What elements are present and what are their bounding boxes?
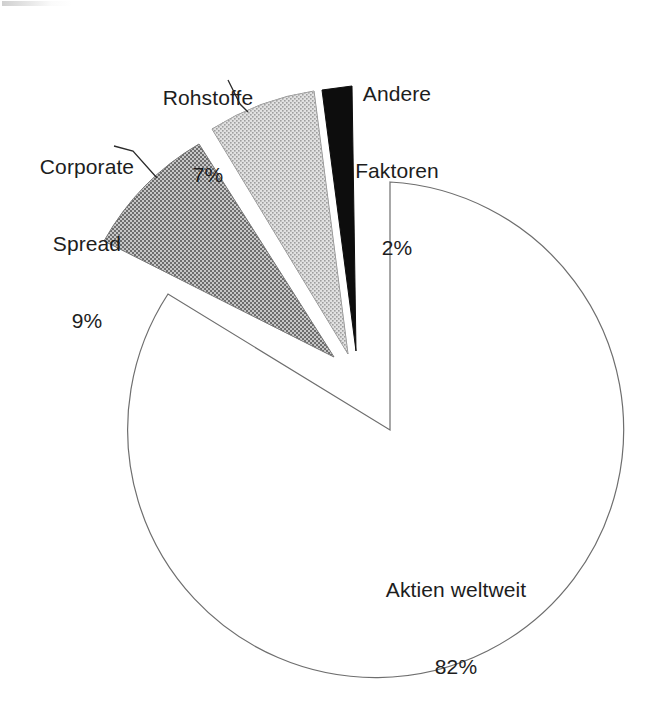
pie-label-aktien-weltweit-value: 82% [372,654,540,680]
pie-label-andere-faktoren-line2: Faktoren [322,158,472,184]
pie-label-rohstoffe-line1: Rohstoffe [140,85,276,111]
pie-label-aktien-weltweit: Aktien weltweit 82% [372,526,540,720]
pie-label-aktien-weltweit-line1: Aktien weltweit [372,577,540,603]
pie-label-andere-faktoren-line1: Andere [322,81,472,107]
pie-chart: Corporate Spread 9% Rohstoffe 7% Andere … [0,0,672,720]
pie-label-andere-faktoren: Andere Faktoren 2% [322,30,472,312]
pie-label-corporate-spread-value: 9% [12,308,162,334]
pie-label-rohstoffe-value: 7% [140,162,276,188]
pie-label-andere-faktoren-value: 2% [322,235,472,261]
pie-label-rohstoffe: Rohstoffe 7% [140,34,276,239]
